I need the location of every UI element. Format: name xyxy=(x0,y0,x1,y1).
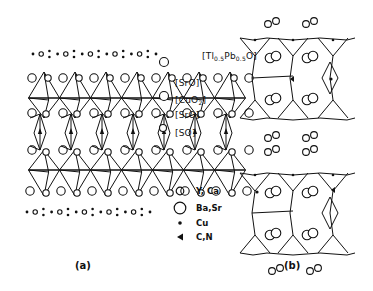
panel-label-a: (a) xyxy=(75,260,91,271)
panel-b-structure xyxy=(240,18,355,275)
triangle-icon xyxy=(172,232,188,242)
large-circle-icon xyxy=(172,201,188,215)
panel-label-b: (b) xyxy=(284,260,300,271)
legend-item-cu: Cu xyxy=(172,218,208,228)
layer-label-sro-top: [SrO] xyxy=(175,78,200,88)
layer-label-sro-bottom: [SrO] xyxy=(175,110,200,120)
small-circle-icon xyxy=(172,186,188,196)
dot-icon xyxy=(172,219,188,227)
panel-a-structure xyxy=(26,50,254,217)
layer-label-tlpbo: [Tl0.5Pb0.5O] xyxy=(202,51,257,62)
legend-item-ba-sr: Ba,Sr xyxy=(172,201,222,215)
layer-label-cuo2: [CuO2] xyxy=(175,95,206,106)
crystal-structure-figure xyxy=(0,0,373,291)
legend-item-y-ca: Y, Ca xyxy=(172,186,219,196)
layer-label-so: [SO] xyxy=(175,128,196,138)
legend-item-c-n: C,N xyxy=(172,232,213,242)
